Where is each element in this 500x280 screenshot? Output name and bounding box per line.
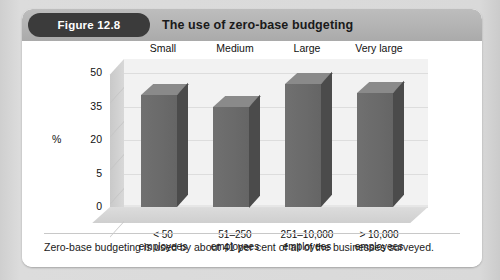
plot-left-wall: [110, 59, 124, 223]
category-header-label: Very large: [334, 42, 424, 54]
figure-title: The use of zero-base budgeting: [162, 13, 353, 37]
caption-separator: [44, 233, 460, 234]
figure-caption: Zero-base budgeting is used by about 41 …: [44, 241, 460, 253]
plot-area: [110, 59, 428, 219]
bar-side-face: [321, 72, 332, 207]
y-axis-title: %: [52, 133, 61, 145]
gridline: [124, 207, 428, 208]
bar-chart: 50352050 % SmallMediumLargeVery large < …: [22, 41, 482, 231]
figure-header-band: Figure 12.8 The use of zero-base budgeti…: [22, 9, 482, 41]
figure-number-badge: Figure 12.8: [28, 13, 150, 37]
bar-side-face: [393, 81, 404, 207]
bar-side-face: [249, 94, 260, 207]
category-range: > 10,000: [331, 229, 427, 241]
bar-front-face: [285, 84, 321, 207]
bar-front-face: [141, 95, 177, 207]
bar-front-face: [213, 107, 249, 208]
y-tick-label: 50: [76, 66, 102, 78]
gridline: [124, 73, 428, 74]
plot-floor: [92, 207, 428, 223]
bar-side-face: [177, 83, 188, 207]
figure-card: Figure 12.8 The use of zero-base budgeti…: [22, 9, 482, 267]
bar-front-face: [357, 93, 393, 207]
y-tick-label: 35: [76, 100, 102, 112]
y-tick-label: 0: [76, 200, 102, 212]
figure-body: 50352050 % SmallMediumLargeVery large < …: [22, 41, 482, 267]
y-tick-label: 5: [76, 167, 102, 179]
y-tick-label: 20: [76, 133, 102, 145]
